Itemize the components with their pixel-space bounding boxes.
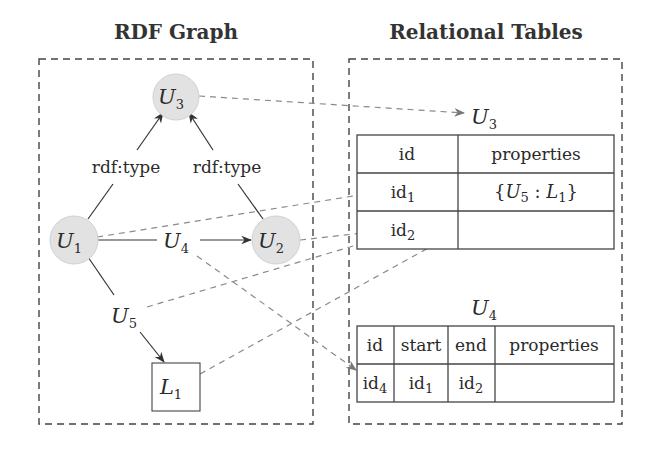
table-u4-title: U4 bbox=[471, 296, 497, 323]
node-u2: U2 bbox=[252, 216, 300, 264]
edge-u1-u5 bbox=[88, 257, 114, 295]
rdf-graph-title: RDF Graph bbox=[114, 20, 239, 44]
edge-label-u4: U4 bbox=[163, 229, 189, 256]
table-u4-header-start: start bbox=[401, 335, 442, 355]
edge-label-rdf-type-left: rdf:type bbox=[92, 157, 160, 177]
node-u1: U1 bbox=[50, 216, 98, 264]
edge-u2-u3-upper bbox=[189, 113, 213, 150]
table-u3-header-id: id bbox=[399, 144, 415, 164]
mapping-u4-to-table bbox=[197, 256, 356, 370]
relational-tables-title: Relational Tables bbox=[389, 20, 583, 44]
edge-label-u5: U5 bbox=[111, 304, 137, 331]
table-u3-header-properties: properties bbox=[491, 144, 580, 164]
edge-label-rdf-type-right: rdf:type bbox=[193, 157, 261, 177]
table-u3-title: U3 bbox=[471, 105, 497, 132]
node-u3: U3 bbox=[153, 74, 199, 120]
diagram-canvas: RDF Graph Relational Tables U3 U1 bbox=[0, 0, 650, 449]
table-u4: U4 id start end properties id4 id1 id2 bbox=[357, 296, 614, 402]
edge-u1-u3-lower bbox=[88, 184, 113, 219]
table-u4-header-id: id bbox=[367, 335, 383, 355]
mapping-u1-to-id1 bbox=[97, 193, 372, 237]
literal-l1: L1 bbox=[152, 363, 200, 411]
table-u3: U3 id properties id1 {U5 : L1} id2 bbox=[357, 105, 614, 249]
edge-u5-l1 bbox=[140, 332, 164, 362]
edge-u1-u3-upper bbox=[137, 113, 163, 150]
mapping-u3-to-table bbox=[199, 96, 464, 113]
table-u4-header-end: end bbox=[455, 335, 487, 355]
table-u4-header-properties: properties bbox=[509, 335, 598, 355]
